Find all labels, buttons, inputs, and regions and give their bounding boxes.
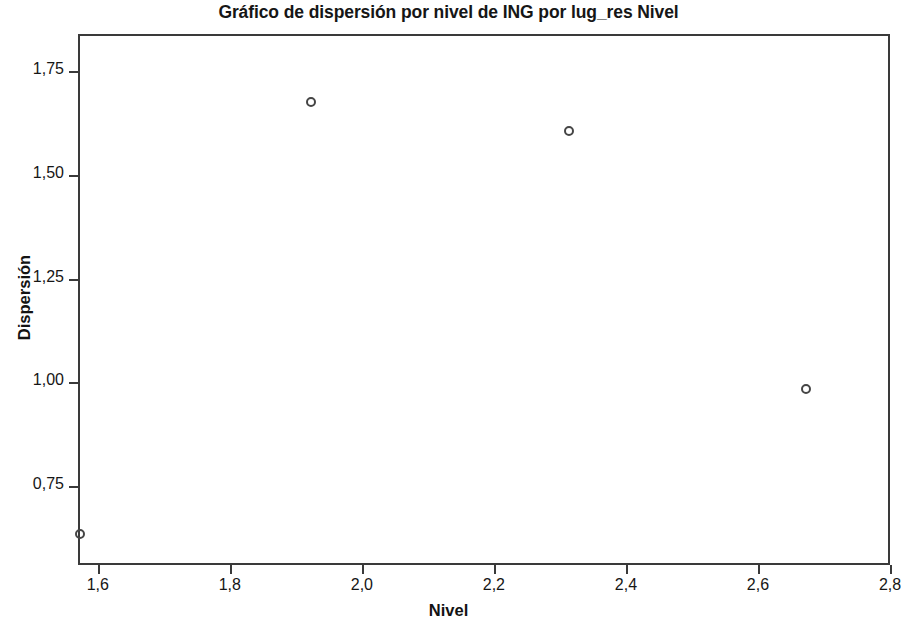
x-tick-label: 2,4 [615,576,637,594]
y-tick-mark [69,279,78,281]
y-tick-label: 1,50 [33,164,64,182]
y-tick-mark [69,71,78,73]
x-tick-mark [362,565,364,574]
y-tick-mark [69,175,78,177]
data-point [306,97,316,107]
x-tick-mark [230,565,232,574]
x-tick-label: 1,6 [87,576,109,594]
x-tick-label: 2,8 [879,576,901,594]
y-tick-label: 1,25 [33,268,64,286]
data-point [801,384,811,394]
data-point [75,529,85,539]
x-tick-mark [890,565,892,574]
plot-area [78,34,890,565]
data-point [564,126,574,136]
x-tick-mark [758,565,760,574]
x-axis-label: Nivel [0,601,897,620]
x-tick-label: 1,8 [219,576,241,594]
x-tick-mark [626,565,628,574]
y-tick-label: 0,75 [33,475,64,493]
y-tick-label: 1,75 [33,60,64,78]
x-tick-mark [98,565,100,574]
y-axis-label: Dispersión [15,238,34,358]
y-tick-label: 1,00 [33,371,64,389]
x-tick-label: 2,0 [351,576,373,594]
chart-title: Gráfico de dispersión por nivel de ING p… [0,2,897,23]
x-tick-label: 2,6 [747,576,769,594]
x-tick-mark [494,565,496,574]
y-tick-mark [69,382,78,384]
y-tick-mark [69,486,78,488]
x-tick-label: 2,2 [483,576,505,594]
